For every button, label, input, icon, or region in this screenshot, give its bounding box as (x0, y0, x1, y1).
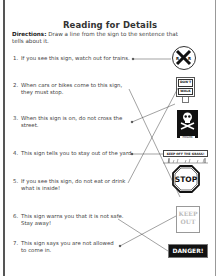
grass-icon (163, 158, 208, 164)
svg-text:R: R (188, 56, 191, 61)
item-number: 1. (13, 55, 21, 62)
dont-walk-sign[interactable]: DON'T WALK (176, 77, 195, 97)
sentence-item-3: 3.When this sign is on, do not cross the… (13, 115, 122, 128)
keep-out-sign[interactable]: KEEP OUT (176, 206, 200, 233)
worksheet-page: Reading for Details Directions: Draw a l… (0, 0, 220, 276)
stop-sign[interactable]: STOP (172, 165, 200, 193)
railroad-crossing-sign[interactable]: R R (172, 46, 196, 70)
directions-label: Directions: (12, 31, 46, 37)
item-number: 3. (13, 115, 21, 122)
keep-off-grass-sign[interactable]: KEEP OFF THE GRASS! (163, 150, 208, 157)
item-number: 6. (13, 213, 21, 220)
item-number: 4. (13, 150, 21, 157)
sentence-item-6: 6.This sign warns you that it is not saf… (13, 213, 124, 226)
item-text-cont: they must stop. (13, 89, 122, 96)
railroad-crossing-icon: R R (173, 47, 194, 68)
poison-sign[interactable]: POISON (177, 110, 198, 138)
item-text: If you see this sign, watch out for trai… (21, 55, 130, 61)
item-text: This sign warns you that it is not safe. (21, 213, 124, 219)
item-text: When cars or bikes come to this sign, (21, 82, 122, 88)
dont-walk-top: DON'T (178, 79, 193, 87)
line-3-poison (132, 104, 175, 122)
item-text: This sign tells you to stay out of the y… (21, 150, 133, 156)
danger-sign[interactable]: DANGER! (168, 244, 208, 258)
item-text-cont: street. (13, 122, 122, 129)
line-6-danger (118, 219, 168, 251)
svg-text:STOP: STOP (175, 175, 198, 184)
item-number: 5. (13, 178, 21, 185)
item-text: If you see this sign, do not eat or drin… (21, 178, 125, 184)
sentence-item-5: 5.If you see this sign, do not eat or dr… (13, 178, 125, 191)
line-7-keep-out (120, 216, 176, 246)
sentence-item-4: 4.This sign tells you to stay out of the… (13, 150, 133, 157)
page-border-left (3, 0, 5, 276)
item-text-cont: to come in. (13, 247, 114, 254)
sentence-item-7: 7.This sign says you are not allowed to … (13, 240, 114, 253)
sentence-item-1: 1.If you see this sign, watch out for tr… (13, 55, 130, 62)
worksheet-title: Reading for Details (0, 20, 220, 30)
dont-walk-pole (182, 97, 189, 103)
directions: Directions: Draw a line from the sign to… (12, 31, 182, 44)
item-number: 2. (13, 82, 21, 89)
item-number: 7. (13, 240, 21, 247)
sentence-item-2: 2.When cars or bikes come to this sign, … (13, 82, 122, 95)
dont-walk-bottom: WALK (178, 88, 193, 96)
keep-out-line2: OUT (177, 218, 199, 226)
skull-crossbones-icon (177, 110, 198, 132)
item-text: This sign says you are not allowed (21, 240, 114, 246)
poison-label: POISON (180, 136, 195, 140)
page-border-right (215, 0, 216, 276)
item-text: When this sign is on, do not cross the (21, 115, 122, 121)
item-text-cont: Stay away! (13, 220, 124, 227)
svg-text:R: R (176, 56, 179, 61)
item-text-cont: what is inside! (13, 185, 125, 192)
keep-out-line1: KEEP (177, 210, 199, 218)
line-5-dont-walk (128, 88, 178, 183)
